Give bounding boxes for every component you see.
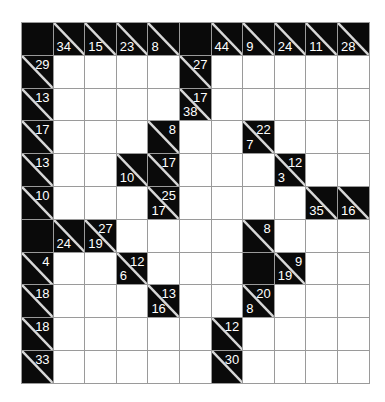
entry-cell-r9-c7[interactable]: [242, 317, 274, 350]
entry-cell-r4-c5[interactable]: [179, 153, 211, 186]
entry-cell-r10-c4[interactable]: [147, 350, 179, 383]
entry-cell-r9-c9[interactable]: [305, 317, 337, 350]
entry-cell-r2-c7[interactable]: [242, 88, 274, 121]
entry-cell-r8-c8[interactable]: [274, 284, 306, 317]
entry-cell-r3-c8[interactable]: [274, 120, 306, 153]
across-clue: 4: [42, 255, 49, 269]
entry-cell-r5-c3[interactable]: [116, 186, 148, 219]
entry-cell-r8-c2[interactable]: [84, 284, 116, 317]
entry-cell-r5-c2[interactable]: [84, 186, 116, 219]
entry-cell-r2-c6[interactable]: [211, 88, 243, 121]
entry-cell-r6-c4[interactable]: [147, 219, 179, 252]
across-clue: 12: [288, 156, 302, 170]
entry-cell-r2-c1[interactable]: [53, 88, 85, 121]
entry-cell-r5-c8[interactable]: [274, 186, 306, 219]
down-clue: 3: [278, 171, 285, 185]
entry-cell-r1-c8[interactable]: [274, 55, 306, 88]
entry-cell-r10-c9[interactable]: [305, 350, 337, 383]
entry-cell-r5-c1[interactable]: [53, 186, 85, 219]
across-clue: 27: [193, 58, 207, 72]
entry-cell-r10-c5[interactable]: [179, 350, 211, 383]
across-clue: 12: [130, 255, 144, 269]
entry-cell-r1-c2[interactable]: [84, 55, 116, 88]
entry-cell-r3-c1[interactable]: [53, 120, 85, 153]
entry-cell-r10-c3[interactable]: [116, 350, 148, 383]
entry-cell-r6-c5[interactable]: [179, 219, 211, 252]
entry-cell-r2-c10[interactable]: [337, 88, 369, 121]
entry-cell-r3-c3[interactable]: [116, 120, 148, 153]
entry-cell-r7-c2[interactable]: [84, 252, 116, 285]
entry-cell-r3-c5[interactable]: [179, 120, 211, 153]
entry-cell-r9-c10[interactable]: [337, 317, 369, 350]
entry-cell-r8-c1[interactable]: [53, 284, 85, 317]
entry-cell-r1-c7[interactable]: [242, 55, 274, 88]
entry-cell-r1-c3[interactable]: [116, 55, 148, 88]
entry-cell-r6-c6[interactable]: [211, 219, 243, 252]
entry-cell-r10-c1[interactable]: [53, 350, 85, 383]
entry-cell-r5-c6[interactable]: [211, 186, 243, 219]
down-clue: 17: [151, 204, 165, 218]
entry-cell-r4-c10[interactable]: [337, 153, 369, 186]
block-cell-r7-c7: [242, 252, 274, 285]
entry-cell-r5-c5[interactable]: [179, 186, 211, 219]
entry-cell-r4-c9[interactable]: [305, 153, 337, 186]
across-clue: 29: [35, 58, 49, 72]
entry-cell-r1-c6[interactable]: [211, 55, 243, 88]
entry-cell-r4-c2[interactable]: [84, 153, 116, 186]
entry-cell-r10-c7[interactable]: [242, 350, 274, 383]
entry-cell-r2-c2[interactable]: [84, 88, 116, 121]
entry-cell-r6-c10[interactable]: [337, 219, 369, 252]
clue-cell-r4-c0: 13: [21, 153, 53, 186]
entry-cell-r4-c1[interactable]: [53, 153, 85, 186]
entry-cell-r3-c2[interactable]: [84, 120, 116, 153]
entry-cell-r3-c10[interactable]: [337, 120, 369, 153]
entry-cell-r7-c10[interactable]: [337, 252, 369, 285]
across-clue: 13: [35, 91, 49, 105]
entry-cell-r2-c9[interactable]: [305, 88, 337, 121]
entry-cell-r9-c3[interactable]: [116, 317, 148, 350]
entry-cell-r7-c1[interactable]: [53, 252, 85, 285]
entry-cell-r7-c9[interactable]: [305, 252, 337, 285]
entry-cell-r6-c8[interactable]: [274, 219, 306, 252]
entry-cell-r10-c2[interactable]: [84, 350, 116, 383]
kakuro-board: 3415238449241128292713381717872213101731…: [21, 22, 370, 384]
clue-cell-r5-c4: 1725: [147, 186, 179, 219]
entry-cell-r2-c4[interactable]: [147, 88, 179, 121]
entry-cell-r3-c6[interactable]: [211, 120, 243, 153]
entry-cell-r1-c1[interactable]: [53, 55, 85, 88]
down-clue: 8: [151, 40, 158, 54]
entry-cell-r8-c10[interactable]: [337, 284, 369, 317]
across-clue: 18: [35, 287, 49, 301]
entry-cell-r5-c7[interactable]: [242, 186, 274, 219]
across-clue: 17: [193, 91, 207, 105]
entry-cell-r7-c6[interactable]: [211, 252, 243, 285]
entry-cell-r7-c4[interactable]: [147, 252, 179, 285]
entry-cell-r3-c9[interactable]: [305, 120, 337, 153]
clue-cell-r4-c8: 312: [274, 153, 306, 186]
entry-cell-r1-c4[interactable]: [147, 55, 179, 88]
entry-cell-r4-c6[interactable]: [211, 153, 243, 186]
clue-cell-r6-c7: 8: [242, 219, 274, 252]
entry-cell-r8-c6[interactable]: [211, 284, 243, 317]
entry-cell-r9-c4[interactable]: [147, 317, 179, 350]
entry-cell-r6-c9[interactable]: [305, 219, 337, 252]
entry-cell-r4-c7[interactable]: [242, 153, 274, 186]
entry-cell-r9-c2[interactable]: [84, 317, 116, 350]
entry-cell-r8-c3[interactable]: [116, 284, 148, 317]
entry-cell-r10-c8[interactable]: [274, 350, 306, 383]
entry-cell-r9-c1[interactable]: [53, 317, 85, 350]
entry-cell-r2-c8[interactable]: [274, 88, 306, 121]
entry-cell-r2-c3[interactable]: [116, 88, 148, 121]
entry-cell-r7-c5[interactable]: [179, 252, 211, 285]
entry-cell-r8-c9[interactable]: [305, 284, 337, 317]
entry-cell-r6-c3[interactable]: [116, 219, 148, 252]
entry-cell-r1-c10[interactable]: [337, 55, 369, 88]
entry-cell-r8-c5[interactable]: [179, 284, 211, 317]
clue-cell-r0-c1: 34: [53, 22, 85, 55]
down-clue: 11: [309, 40, 323, 54]
across-clue: 30: [225, 353, 239, 367]
entry-cell-r9-c5[interactable]: [179, 317, 211, 350]
entry-cell-r9-c8[interactable]: [274, 317, 306, 350]
entry-cell-r1-c9[interactable]: [305, 55, 337, 88]
entry-cell-r10-c10[interactable]: [337, 350, 369, 383]
